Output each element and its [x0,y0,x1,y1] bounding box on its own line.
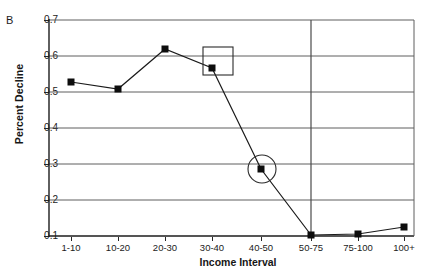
data-point-40-50 [258,166,265,173]
data-point-75-100 [355,231,362,238]
annotation-rectangle [203,47,233,75]
data-point-30-40 [209,65,216,72]
data-point-10-20 [115,86,122,93]
data-point-1-10 [68,79,75,86]
data-point-100plus [401,224,408,231]
data-markers [68,46,408,239]
data-point-20-30 [162,46,169,53]
data-series-line [71,49,404,235]
plot-area [0,0,436,272]
data-point-50-75 [308,232,315,239]
chart-panel: B Percent Decline Income Interval 0.7 0.… [0,0,436,272]
